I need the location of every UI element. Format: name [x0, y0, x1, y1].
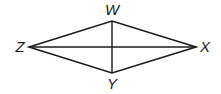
vertex-label-x: X — [199, 38, 211, 55]
diagram-svg: W X Y Z — [0, 0, 221, 94]
rhombus-diagram: W X Y Z — [0, 0, 221, 94]
vertex-label-y: Y — [107, 75, 118, 92]
vertex-label-w: W — [105, 1, 121, 18]
vertex-label-z: Z — [14, 38, 25, 55]
